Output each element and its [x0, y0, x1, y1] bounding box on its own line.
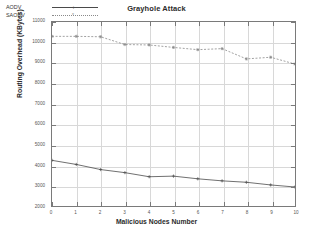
- series-line-saodv: [52, 36, 295, 64]
- legend-line-aodv: [52, 7, 98, 8]
- chart-legend: AODV + SAODV *: [6, 3, 50, 19]
- data-point-aodv: [123, 171, 126, 174]
- data-point-saodv: [196, 48, 199, 51]
- legend-item-saodv: SAODV *: [6, 11, 50, 19]
- y-tick-mark: [291, 22, 295, 23]
- data-point-saodv: [148, 43, 151, 46]
- x-tick-mark: [77, 22, 78, 26]
- x-tick-mark: [224, 202, 225, 206]
- x-tick-mark: [52, 22, 53, 26]
- legend-line-saodv: [52, 15, 98, 16]
- y-tick-mark: [291, 63, 295, 64]
- x-tick-label: 4: [139, 210, 159, 215]
- y-tick-label: 10000: [0, 39, 45, 44]
- data-point-aodv: [99, 168, 102, 171]
- y-tick-label: 8000: [0, 80, 45, 85]
- y-tick-label: 3000: [0, 183, 45, 188]
- x-tick-label: 1: [66, 210, 86, 215]
- chart-container: Grayhole Attack Routing Overhead (KBytes…: [0, 0, 313, 237]
- x-tick-mark: [224, 22, 225, 26]
- data-point-saodv: [245, 57, 248, 60]
- y-tick-mark: [291, 105, 295, 106]
- data-point-aodv: [269, 183, 272, 186]
- legend-marker-saodv: *: [72, 12, 74, 19]
- y-tick-mark: [291, 43, 295, 44]
- y-tick-mark: [291, 146, 295, 147]
- data-point-aodv: [196, 177, 199, 180]
- x-tick-label: 8: [237, 210, 257, 215]
- y-tick-label: 5000: [0, 142, 45, 147]
- y-tick-mark: [52, 187, 56, 188]
- x-tick-mark: [77, 202, 78, 206]
- y-tick-label: 7000: [0, 101, 45, 106]
- data-point-saodv: [220, 47, 223, 50]
- x-tick-mark: [101, 202, 102, 206]
- x-tick-label: 10: [286, 210, 306, 215]
- x-tick-mark: [52, 202, 53, 206]
- y-tick-mark: [291, 84, 295, 85]
- data-point-aodv: [220, 179, 223, 182]
- x-tick-mark: [273, 202, 274, 206]
- data-point-saodv: [75, 35, 78, 38]
- x-tick-mark: [248, 202, 249, 206]
- x-tick-mark: [248, 22, 249, 26]
- x-tick-mark: [126, 202, 127, 206]
- x-tick-mark: [175, 202, 176, 206]
- y-tick-mark: [52, 167, 56, 168]
- legend-item-aodv: AODV +: [6, 3, 50, 11]
- x-tick-mark: [199, 22, 200, 26]
- y-tick-mark: [52, 125, 56, 126]
- x-tick-label: 7: [213, 210, 233, 215]
- y-tick-label: 4000: [0, 163, 45, 168]
- data-point-saodv: [269, 56, 272, 59]
- y-tick-mark: [52, 84, 56, 85]
- y-tick-label: 9000: [0, 59, 45, 64]
- y-tick-mark: [291, 167, 295, 168]
- data-point-saodv: [99, 35, 102, 38]
- x-tick-mark: [150, 22, 151, 26]
- plot-inner: [52, 22, 295, 206]
- x-axis-label: Malicious Nodes Number: [0, 218, 313, 225]
- plot-area: [51, 21, 296, 207]
- legend-marker-aodv: +: [72, 4, 75, 11]
- x-tick-mark: [101, 22, 102, 26]
- data-point-aodv: [245, 181, 248, 184]
- data-point-saodv: [123, 43, 126, 46]
- data-point-aodv: [75, 163, 78, 166]
- x-tick-label: 2: [90, 210, 110, 215]
- x-tick-label: 0: [41, 210, 61, 215]
- legend-label-saodv: SAODV: [6, 11, 50, 19]
- x-tick-mark: [175, 22, 176, 26]
- series-line-aodv: [52, 160, 295, 187]
- y-tick-label: 2000: [0, 204, 45, 209]
- y-tick-mark: [291, 125, 295, 126]
- y-tick-mark: [291, 187, 295, 188]
- y-tick-mark: [52, 146, 56, 147]
- x-tick-label: 6: [188, 210, 208, 215]
- legend-label-aodv: AODV: [6, 3, 50, 11]
- x-tick-label: 5: [164, 210, 184, 215]
- y-tick-label: 6000: [0, 121, 45, 126]
- data-point-aodv: [148, 175, 151, 178]
- x-tick-mark: [150, 202, 151, 206]
- y-tick-mark: [52, 105, 56, 106]
- y-tick-mark: [52, 63, 56, 64]
- x-tick-mark: [199, 202, 200, 206]
- data-point-saodv: [172, 46, 175, 49]
- x-tick-mark: [273, 22, 274, 26]
- y-tick-mark: [52, 43, 56, 44]
- x-tick-mark: [126, 22, 127, 26]
- series-lines: [52, 22, 295, 206]
- data-point-saodv: [52, 35, 54, 38]
- data-point-aodv: [52, 159, 54, 162]
- x-tick-label: 9: [262, 210, 282, 215]
- data-point-aodv: [172, 175, 175, 178]
- x-tick-label: 3: [115, 210, 135, 215]
